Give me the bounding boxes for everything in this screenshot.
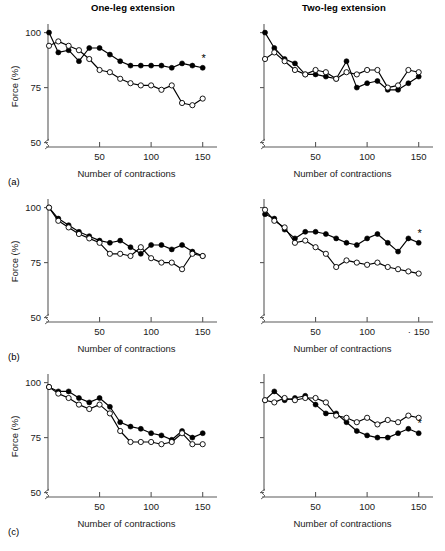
data-point-open [313,395,318,400]
series-line-filled [49,208,203,256]
y-tick-label: 50 [30,312,41,323]
data-point-open [138,439,143,444]
x-tick-label: 150 [195,151,211,162]
x-tick-label: 150 [195,501,211,512]
series-line-open [49,41,203,105]
x-tick-label: 100 [359,501,375,512]
data-point-filled [396,249,401,254]
y-tick-label: 75 [30,432,41,443]
y-axis-title: Force (%) [9,241,20,283]
figure-root: One-leg extension Two-leg extension 5075… [0,0,445,551]
data-point-open [365,262,370,267]
x-tick-label: 50 [310,326,321,337]
x-tick-label: 50 [94,501,105,512]
x-axis-title: Number of contractions [293,518,391,529]
data-point-open [107,70,112,75]
data-point-open [179,267,184,272]
data-point-open [87,56,92,61]
column-title-two-leg: Two-leg extension [258,2,430,13]
series-line-open [265,210,419,274]
data-point-open [375,260,380,265]
data-point-open [107,251,112,256]
data-point-filled [76,59,81,64]
x-tick-label: 150 [195,326,211,337]
x-tick-label: 50 [94,151,105,162]
data-point-filled [76,396,81,401]
data-point-open [272,50,277,55]
x-tick-label: 100 [359,151,375,162]
data-point-filled [200,65,205,70]
data-point-filled [169,247,174,252]
data-point-open [97,67,102,72]
data-point-filled [200,431,205,436]
data-point-filled [180,243,185,248]
data-point-open [179,100,184,105]
data-point-open [323,400,328,405]
data-point-open [262,398,267,403]
x-axis-title: Number of contractions [77,168,175,179]
data-point-open [87,236,92,241]
data-point-filled [169,65,174,70]
data-point-filled [323,411,328,416]
data-point-open [190,251,195,256]
data-point-open [344,258,349,263]
data-point-filled [159,243,164,248]
data-point-filled [107,404,112,409]
data-point-open [334,76,339,81]
data-point-open [138,83,143,88]
data-point-open [416,271,421,276]
data-point-open [344,415,349,420]
data-point-filled [128,424,133,429]
data-point-open [385,264,390,269]
data-point-open [282,395,287,400]
data-point-open [272,218,277,223]
panel-row-c: 507510050100150Number of contractionsFor… [0,368,445,543]
data-point-open [406,67,411,72]
y-tick-label: 50 [30,487,41,498]
column-title-one-leg: One-leg extension [47,2,219,13]
data-point-open [200,253,205,258]
panel-label-b: (b) [8,351,20,362]
data-point-open [169,260,174,265]
y-tick-label: 100 [25,27,41,38]
data-point-filled [97,396,102,401]
panel-row-b: 507510050100150Number of contractionsFor… [0,193,445,368]
data-point-open [395,267,400,272]
data-point-open [46,384,51,389]
y-tick-label: 100 [25,202,41,213]
panel-row-a: 507510050100150Number of contractionsFor… [0,18,445,193]
data-point-open [128,439,133,444]
data-point-filled [313,229,318,234]
panel-label-a: (a) [8,176,20,187]
panel-b-right: 50100· 150Number of contractions* [222,193,437,368]
data-point-filled [365,81,370,86]
data-point-filled [263,30,268,35]
data-point-filled [180,61,185,66]
panel-c-left: 507510050100150Number of contractionsFor… [6,368,221,543]
data-point-open [76,48,81,53]
data-point-open [66,225,71,230]
data-point-open [406,413,411,418]
data-point-open [46,205,51,210]
y-axis-title: Force (%) [9,416,20,458]
data-point-filled [406,426,411,431]
data-point-filled [159,63,164,68]
data-point-filled [385,240,390,245]
data-point-open [149,83,154,88]
data-point-open [334,413,339,418]
x-tick-label: 50 [94,326,105,337]
data-point-open [159,442,164,447]
data-point-open [56,218,61,223]
data-point-filled [107,240,112,245]
data-point-open [262,56,267,61]
series-line-open [49,208,203,270]
data-point-filled [128,245,133,250]
data-point-open [118,251,123,256]
x-tick-label: 50 [310,151,321,162]
data-point-open [406,269,411,274]
data-point-filled [303,229,308,234]
data-point-open [56,39,61,44]
panel-c-right: 50100150Number of contractions* [222,368,437,543]
data-point-open [385,417,390,422]
data-point-filled [138,251,143,256]
